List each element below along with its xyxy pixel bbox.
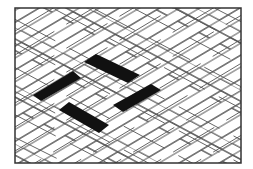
weave-tiles [0,0,253,169]
weave-pattern-figure [0,0,253,169]
